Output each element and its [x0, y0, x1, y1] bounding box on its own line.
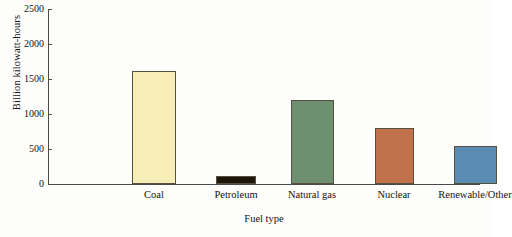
- x-tick-label: Renewable/Other: [438, 189, 511, 200]
- x-axis-title-text: Fuel type: [244, 213, 283, 224]
- x-tick-label: Nuclear: [377, 189, 410, 200]
- x-tick-label: Coal: [144, 189, 164, 200]
- x-tick-label: Petroleum: [214, 189, 257, 200]
- bar: [291, 100, 334, 184]
- x-tick-label: Natural gas: [288, 189, 336, 200]
- bar-group: Nuclear: [375, 9, 414, 184]
- x-axis-title: Fuel type: [0, 213, 490, 224]
- bar: [375, 128, 414, 184]
- bar: [216, 176, 256, 184]
- plot-area: 05001000150020002500 CoalPetroleumNatura…: [48, 9, 480, 185]
- y-tick-label: 2500: [4, 4, 44, 14]
- bar-group: Petroleum: [216, 9, 256, 184]
- bar-group: Coal: [132, 9, 176, 184]
- bar-series: CoalPetroleumNatural gasNuclearRenewable…: [48, 9, 480, 185]
- bar: [132, 71, 176, 184]
- y-tick-label: 1500: [4, 74, 44, 84]
- y-tick-label: 1000: [4, 109, 44, 119]
- y-tick-label: 0: [4, 179, 44, 189]
- y-tick-label: 2000: [4, 39, 44, 49]
- bar-group: Renewable/Other: [454, 9, 497, 184]
- bar: [454, 146, 497, 184]
- y-tick-label: 500: [4, 144, 44, 154]
- bar-group: Natural gas: [291, 9, 334, 184]
